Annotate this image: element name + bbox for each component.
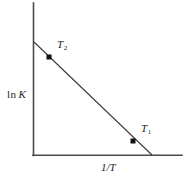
x-axis-label: 1/T	[101, 162, 116, 173]
figure-background	[0, 0, 190, 179]
y-axis-label-variable: K	[17, 88, 27, 100]
plot-area	[0, 0, 190, 179]
y-axis-label: lnK	[7, 89, 26, 100]
data-point-label-t1: T1	[141, 123, 151, 134]
data-point-marker-t1	[131, 139, 136, 144]
data-point-marker-t2	[47, 55, 52, 60]
data-point-label-t2: T2	[57, 39, 67, 50]
y-axis-label-prefix: ln	[7, 88, 17, 100]
data-point-label-t2-subscript: 2	[64, 44, 68, 52]
data-point-label-t1-subscript: 1	[148, 128, 152, 136]
data-point-label-t1-symbol: T	[141, 122, 147, 134]
data-point-label-t2-symbol: T	[57, 38, 63, 50]
vant-hoff-plot-figure: lnK 1/T T2 T1	[0, 0, 190, 179]
